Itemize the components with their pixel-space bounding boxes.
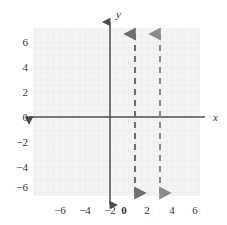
y-axis-label: y [115, 8, 121, 20]
y-tick-label: 2 [23, 86, 29, 98]
x-tick-label: −2 [104, 204, 116, 216]
y-tick-label: 6 [23, 36, 29, 48]
x-tick-label: 4 [169, 204, 175, 216]
y-tick-label: 4 [23, 61, 29, 73]
x-tick-label: −6 [54, 204, 66, 216]
x-tick-label: 6 [192, 204, 198, 216]
x-tick-label: 0 [121, 204, 127, 216]
y-tick-label: −6 [16, 181, 28, 193]
coordinate-plane-figure: y x 6 4 2 0 −2 −4 −6 −6 −4 −2 0 2 4 6 [0, 0, 227, 225]
y-tick-label: 0 [23, 111, 29, 123]
grid-background [33, 28, 200, 196]
graph-canvas: y x 6 4 2 0 −2 −4 −6 −6 −4 −2 0 2 4 6 [0, 0, 227, 225]
y-tick-label: −2 [16, 136, 28, 148]
x-axis-label: x [212, 111, 218, 123]
x-tick-label: 2 [144, 204, 150, 216]
x-tick-label: −4 [79, 204, 91, 216]
y-tick-label: −4 [16, 161, 28, 173]
